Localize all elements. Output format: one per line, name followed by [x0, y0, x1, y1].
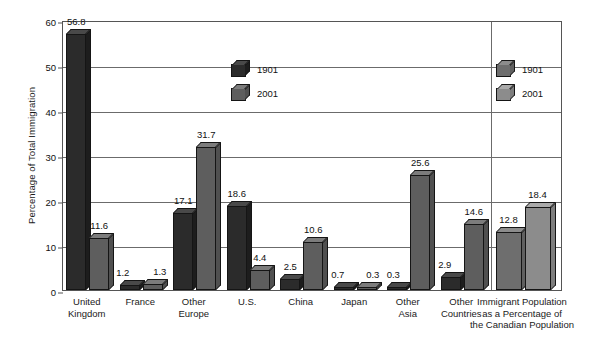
- bar-side: [216, 142, 221, 290]
- bar-1901-5: 0.7: [334, 287, 354, 290]
- x-axis-label-8-line-1: as a Percentage of: [447, 308, 597, 320]
- bar-face: [280, 279, 300, 290]
- bar-1901-2-value: 17.1: [174, 195, 193, 206]
- bar-1901-6-value: 0.3: [387, 269, 400, 280]
- bar-face: [334, 287, 354, 290]
- bar-face: [496, 232, 522, 290]
- x-axis-label-0-line-1: Kingdom: [44, 308, 130, 320]
- bar-side: [109, 233, 114, 290]
- bar-1901-5-value: 0.7: [331, 269, 344, 280]
- bar-2001-7-value: 14.6: [465, 206, 484, 217]
- legend-left-swatch-1901: [231, 64, 246, 77]
- bar-face: [89, 238, 109, 290]
- bar-2001-3-value: 4.4: [253, 252, 266, 263]
- bar-face: [357, 287, 377, 290]
- bar-face: [387, 287, 407, 290]
- y-axis-tick-40: 40: [45, 107, 63, 118]
- bar-1901-8-value: 12.8: [499, 214, 518, 225]
- bar-1901-3: 18.6: [227, 206, 247, 290]
- bar-side: [430, 170, 435, 290]
- bar-2001-7: 14.6: [464, 224, 484, 290]
- gridline-50: [63, 67, 561, 68]
- bar-1901-4: 2.5: [280, 279, 300, 290]
- bar-face: [196, 147, 216, 290]
- y-axis-title: Percentage of Total Immigration: [26, 41, 37, 271]
- y-axis-tick-50: 50: [45, 62, 63, 73]
- bar-face: [250, 270, 270, 290]
- y-axis-tick-60: 60: [45, 17, 63, 28]
- bar-1901-4-value: 2.5: [284, 261, 297, 272]
- bar-side: [551, 202, 556, 290]
- bar-2001-1-value: 1.3: [153, 266, 166, 277]
- bar-face: [227, 206, 247, 290]
- bar-face: [173, 213, 193, 290]
- immigration-bar-chart: Percentage of Total Immigration 01020304…: [0, 0, 603, 340]
- bar-2001-3: 4.4: [250, 270, 270, 290]
- bar-1901-2: 17.1: [173, 213, 193, 290]
- bar-2001-8-value: 18.4: [528, 189, 547, 200]
- bar-face: [525, 207, 551, 290]
- bar-face: [66, 34, 86, 290]
- gridline-30: [63, 157, 561, 158]
- bar-2001-4-value: 10.6: [304, 224, 323, 235]
- x-axis-label-8-line-2: the Canadian Population: [447, 319, 597, 331]
- bar-1901-0-value: 56.8: [67, 16, 86, 27]
- bar-2001-2-value: 31.7: [197, 129, 216, 140]
- bar-face: [120, 285, 140, 290]
- bar-1901-1-value: 1.2: [116, 267, 129, 278]
- bar-face: [441, 277, 461, 290]
- bar-1901-8: 12.8: [496, 232, 522, 290]
- bar-1901-7-value: 2.9: [438, 259, 451, 270]
- bar-side: [323, 237, 328, 290]
- y-axis-tick-20: 20: [45, 197, 63, 208]
- bar-2001-1: 1.3: [143, 284, 163, 290]
- bar-1901-0: 56.8: [66, 34, 86, 290]
- y-axis-tick-30: 30: [45, 152, 63, 163]
- bar-2001-4: 10.6: [303, 242, 323, 290]
- bar-face: [303, 242, 323, 290]
- bar-2001-6: 25.6: [410, 175, 430, 290]
- legend-right-swatch-1901: [496, 64, 511, 77]
- legend-right-label-2001: 2001: [522, 88, 543, 99]
- bar-face: [410, 175, 430, 290]
- legend-right-label-1901: 1901: [522, 64, 543, 75]
- x-axis-label-2-line-1: Europe: [151, 308, 237, 320]
- bar-2001-5-value: 0.3: [366, 269, 379, 280]
- x-axis-label-8: Immigrant Populationas a Percentage ofth…: [447, 296, 597, 331]
- legend-left-label-1901: 1901: [257, 64, 278, 75]
- bar-2001-5: 0.3: [357, 287, 377, 290]
- bar-2001-0: 11.6: [89, 238, 109, 290]
- group-separator-line: [491, 22, 492, 290]
- bar-1901-1: 1.2: [120, 285, 140, 290]
- legend-left-label-2001: 2001: [257, 88, 278, 99]
- bar-side: [484, 219, 489, 290]
- y-axis-tick-10: 10: [45, 242, 63, 253]
- bar-1901-3-value: 18.6: [228, 188, 247, 199]
- bar-2001-8: 18.4: [525, 207, 551, 290]
- bar-1901-6: 0.3: [387, 287, 407, 290]
- bar-1901-7: 2.9: [441, 277, 461, 290]
- legend-left-swatch-2001: [231, 88, 246, 101]
- gridline-20: [63, 202, 561, 203]
- bar-face: [464, 224, 484, 290]
- plot-area: 010203040506056.811.61.21.317.131.718.64…: [62, 21, 562, 291]
- bar-2001-0-value: 11.6: [90, 220, 108, 231]
- gridline-40: [63, 112, 561, 113]
- bar-face: [143, 284, 163, 290]
- x-axis-label-8-line-0: Immigrant Population: [447, 296, 597, 308]
- bar-side: [270, 265, 275, 290]
- bar-2001-2: 31.7: [196, 147, 216, 290]
- legend-right-swatch-2001: [496, 88, 511, 101]
- bar-2001-6-value: 25.6: [411, 157, 430, 168]
